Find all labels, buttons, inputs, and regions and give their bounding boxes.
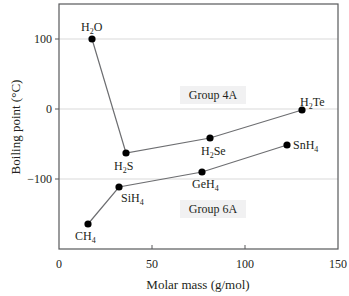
y-axis-label: Boiling point (°C) bbox=[8, 80, 23, 175]
label-h2te: H2Te bbox=[300, 95, 325, 111]
x-tick-50: 50 bbox=[146, 257, 158, 271]
markers bbox=[84, 35, 305, 227]
y-tick-100: 100 bbox=[34, 32, 52, 46]
gridlines bbox=[59, 39, 338, 179]
marker-h2o bbox=[88, 35, 95, 42]
label-h2se: H2Se bbox=[201, 144, 226, 160]
marker-geh4 bbox=[198, 168, 205, 175]
x-tick-150: 150 bbox=[329, 257, 347, 271]
label-h2o: H2O bbox=[81, 20, 103, 36]
x-tick-100: 100 bbox=[236, 257, 254, 271]
y-tick-minus-100: −100 bbox=[27, 172, 52, 186]
label-sih4: SiH4 bbox=[121, 191, 144, 207]
marker-h2se bbox=[206, 134, 213, 141]
x-axis-label: Molar mass (g/mol) bbox=[146, 277, 249, 292]
group-bottom-label: Group 6A bbox=[189, 202, 238, 216]
marker-h2s bbox=[122, 149, 129, 156]
group-top-label: Group 4A bbox=[189, 88, 238, 102]
label-ch4: CH4 bbox=[75, 229, 96, 245]
x-tick-0: 0 bbox=[56, 257, 62, 271]
label-geh4: GeH4 bbox=[192, 177, 219, 193]
boiling-point-chart: Group 4A Group 6A 100 0 −100 0 50 100 15… bbox=[0, 0, 349, 296]
marker-sih4 bbox=[115, 183, 122, 190]
label-snh4: SnH4 bbox=[293, 138, 318, 154]
marker-snh4 bbox=[283, 141, 290, 148]
y-tick-0: 0 bbox=[46, 102, 52, 116]
label-h2s: H2S bbox=[114, 159, 133, 175]
marker-ch4 bbox=[84, 220, 91, 227]
